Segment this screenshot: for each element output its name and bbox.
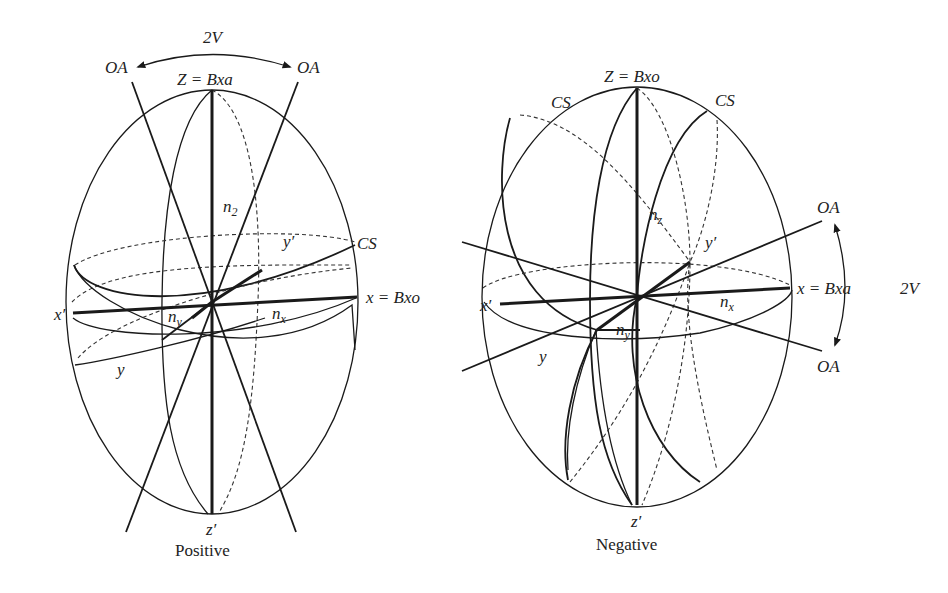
x-prime-label: x′ [53,305,66,324]
z-prime-label: z′ [205,520,217,539]
circular-section-label-left: CS [551,93,571,112]
circular-section-front [74,245,355,296]
nz-label: nz [649,205,663,227]
optic-axis-label-left: OA [105,58,128,77]
ny-label: ny [168,307,183,329]
cs-back-right [688,120,718,470]
circular-section-back [75,234,355,265]
ny-label: ny [616,320,631,342]
2v-arc [138,55,290,68]
circular-section-label-right: CS [715,91,735,110]
optic-axis-label-right: OA [297,58,320,77]
z-axis-label: Z = Bxo [604,67,660,86]
nx-label: nx [272,304,287,326]
angle-label: 2V [900,279,922,298]
negative-indicatrix: Z = Bxo CS CS OA nz y′ x = Bxa 2V x′ nx … [462,67,922,554]
angle-label: 2V [203,28,225,47]
x-axis-label: x = Bxa [796,279,851,298]
optic-axis-2 [462,221,822,371]
x-axis-label: x = Bxo [365,288,420,307]
front-meridian [162,90,212,514]
positive-indicatrix: 2V OA OA Z = Bxa n2 y′ CS x = Bxo x′ ny … [53,28,420,560]
y-prime-label: y′ [281,232,295,251]
y-axis-label: y [115,360,125,379]
z-axis-label: Z = Bxa [177,70,233,89]
circular-section-label: CS [357,234,377,253]
caption-positive: Positive [175,541,230,560]
x-prime-label: x′ [479,296,492,315]
z-prime-label: z′ [630,512,642,531]
y-prime-label: y′ [703,233,717,252]
caption-negative: Negative [596,535,657,554]
y-axis-label: y [537,347,547,366]
meridian-left [596,330,632,505]
optic-axis-label-bottom: OA [817,357,840,376]
nx-label: nx [720,292,735,314]
nz-label: n2 [223,197,238,219]
indicatrix-diagram: 2V OA OA Z = Bxa n2 y′ CS x = Bxo x′ ny … [0,0,948,593]
equator-back [78,268,352,358]
optic-axis-label-top: OA [817,198,840,217]
cs-back-left [520,115,690,262]
